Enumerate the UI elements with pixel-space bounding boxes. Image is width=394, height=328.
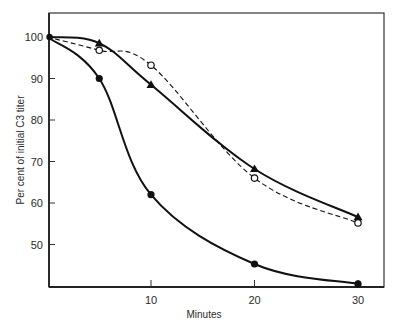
data-point-open-circles [96, 47, 102, 53]
y-tick-label: 60 [31, 197, 43, 209]
data-point-filled-triangles [250, 164, 259, 172]
data-point-open-circles [355, 220, 361, 226]
chart: 5060708090100 102030 Minutes Per cent of… [0, 0, 394, 328]
data-point-filled-circles [251, 260, 258, 267]
series-line-filled-triangles [48, 37, 359, 217]
y-tick-label: 50 [31, 239, 43, 251]
x-tick-label: 30 [352, 294, 364, 306]
data-point-filled-circles [354, 280, 361, 287]
x-tick-label: 20 [248, 294, 260, 306]
data-point-filled-circles [96, 75, 103, 82]
data-point-origin [46, 34, 52, 40]
data-point-open-circles [251, 175, 257, 181]
y-tick-label: 100 [25, 31, 43, 43]
y-tick-label: 90 [31, 73, 43, 85]
series-curves [48, 37, 359, 284]
data-point-open-circles [148, 62, 154, 68]
x-axis-label: Minutes [186, 309, 221, 320]
y-ticks: 5060708090100 [25, 31, 55, 251]
x-tick-label: 10 [145, 294, 157, 306]
x-ticks: 102030 [145, 280, 364, 306]
y-axis-label: Per cent of initial C3 titer [15, 95, 26, 205]
y-tick-label: 70 [31, 156, 43, 168]
series-line-filled-circles [48, 37, 359, 284]
data-point-filled-circles [147, 191, 154, 198]
y-tick-label: 80 [31, 114, 43, 126]
